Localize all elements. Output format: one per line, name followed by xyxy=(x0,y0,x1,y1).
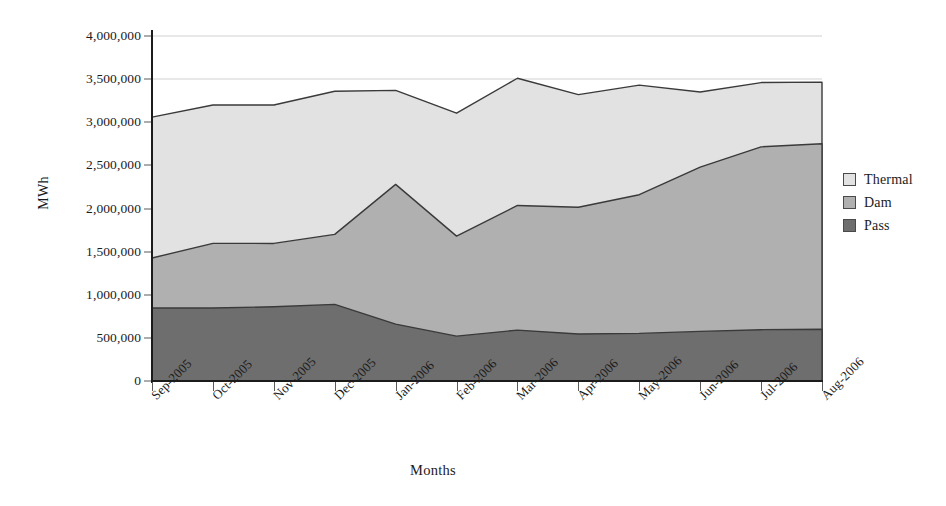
x-axis-tick-label: Aug-2006 xyxy=(818,354,867,403)
y-axis-tick-labels: 0500,0001,000,0001,500,0002,000,0002,500… xyxy=(0,0,141,506)
y-axis-tick-label: 2,500,000 xyxy=(86,157,141,173)
legend-label: Thermal xyxy=(864,172,913,188)
area-series-group xyxy=(152,36,822,381)
y-axis-tick-label: 4,000,000 xyxy=(86,28,141,44)
legend-label: Pass xyxy=(864,218,890,234)
y-axis-line xyxy=(151,30,153,383)
legend-item-pass[interactable]: Pass xyxy=(843,214,913,237)
y-axis-tick-label: 3,000,000 xyxy=(86,114,141,130)
legend-swatch-icon xyxy=(843,219,856,232)
legend-item-thermal[interactable]: Thermal xyxy=(843,168,913,191)
plot-area xyxy=(152,36,822,381)
y-axis-tick-label: 1,000,000 xyxy=(86,287,141,303)
y-axis-tick-label: 0 xyxy=(134,373,141,389)
y-axis-tick-label: 2,000,000 xyxy=(86,201,141,217)
y-axis-tick-label: 1,500,000 xyxy=(86,244,141,260)
y-axis-tick-label: 500,000 xyxy=(96,330,141,346)
legend-swatch-icon xyxy=(843,196,856,209)
y-axis-title: MWh xyxy=(36,176,52,210)
y-axis-tick-label: 3,500,000 xyxy=(86,71,141,87)
legend-item-dam[interactable]: Dam xyxy=(843,191,913,214)
legend-swatch-icon xyxy=(843,173,856,186)
legend-label: Dam xyxy=(864,195,892,211)
x-axis-title: Months xyxy=(0,462,946,479)
legend: ThermalDamPass xyxy=(843,168,913,237)
stacked-area-chart: 0500,0001,000,0001,500,0002,000,0002,500… xyxy=(0,0,946,506)
x-axis-title-text: Months xyxy=(410,462,456,479)
